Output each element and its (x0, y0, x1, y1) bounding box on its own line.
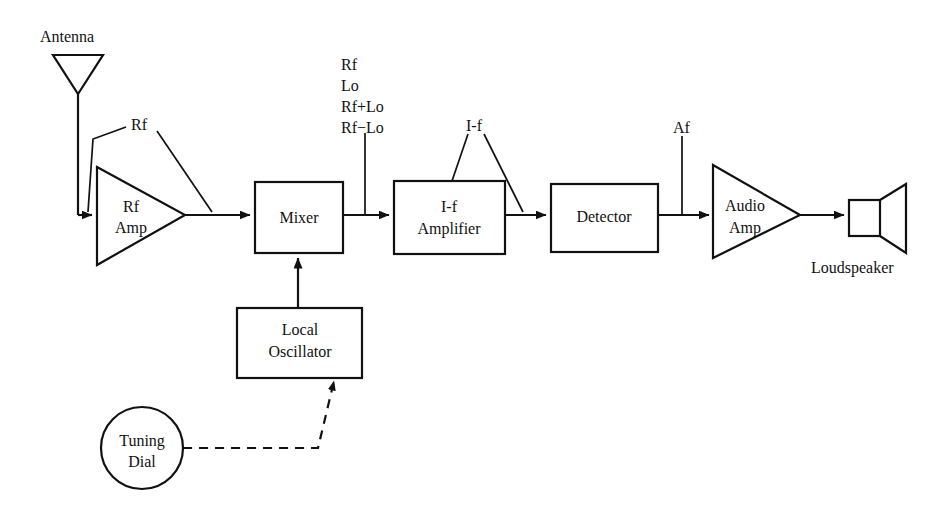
tuning-dial-label-line2: Dial (128, 453, 156, 470)
mixer-output-label-rf-plus-lo: Rf+Lo (341, 98, 384, 115)
loudspeaker-label: Loudspeaker (811, 259, 894, 277)
if-signal-label: I-f (466, 117, 483, 134)
af-signal-label: Af (673, 119, 691, 136)
rf-signal-label: Rf (131, 116, 148, 133)
tuning-dial-label-line1: Tuning (119, 432, 165, 450)
mixer-label: Mixer (279, 209, 319, 226)
if-label-leaders (452, 134, 523, 212)
if-amplifier-block (394, 181, 505, 254)
if-amplifier-label-line1: I-f (441, 198, 458, 215)
detector-label: Detector (576, 208, 632, 225)
mixer-output-label-rf: Rf (341, 56, 358, 73)
loudspeaker-symbol (849, 184, 906, 253)
rf-amp-block (97, 167, 185, 265)
audio-amp-label-line2: Amp (729, 219, 761, 237)
audio-amp-label-line1: Audio (725, 197, 765, 214)
connector-tuning-dial-to-local-oscillator (183, 381, 334, 448)
block-diagram-canvas: Antenna Rf Amp Rf Mixer Rf Lo Rf+Lo Rf−L… (0, 0, 940, 511)
mixer-output-label-rf-minus-lo: Rf−Lo (341, 119, 384, 136)
if-amplifier-label-line2: Amplifier (417, 220, 481, 238)
mixer-output-label-lo: Lo (341, 77, 359, 94)
diagram-svg: Antenna Rf Amp Rf Mixer Rf Lo Rf+Lo Rf−L… (0, 0, 940, 511)
antenna-symbol (53, 55, 103, 215)
rf-amp-label-line2: Amp (115, 219, 147, 237)
local-oscillator-label-line2: Oscillator (268, 343, 332, 360)
rf-label-leaders (88, 127, 212, 212)
local-oscillator-label-line1: Local (282, 321, 319, 338)
antenna-label: Antenna (40, 28, 94, 45)
rf-amp-label-line1: Rf (123, 198, 140, 215)
